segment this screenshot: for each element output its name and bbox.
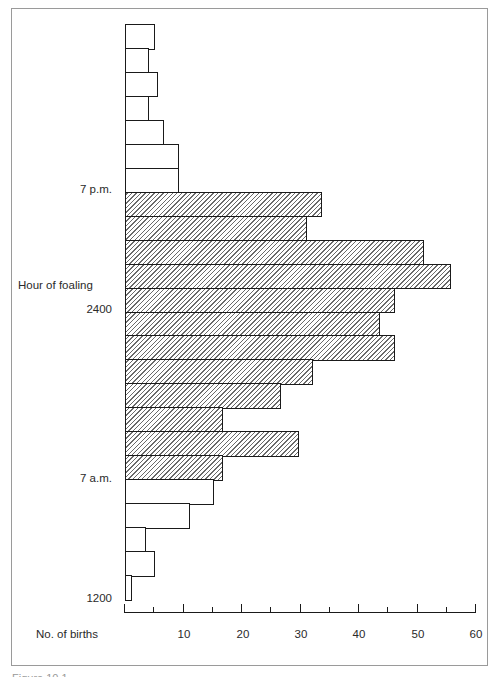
major-tick: [475, 604, 476, 613]
bar-09-10: [125, 527, 146, 553]
y-tick-1200: 1200: [22, 592, 112, 604]
bar-10-11: [125, 551, 155, 577]
x-tick-label-20: 20: [237, 628, 250, 640]
bar-14-15: [125, 72, 158, 98]
x-tick-label-30: 30: [295, 628, 308, 640]
bar-11-12: [125, 575, 132, 601]
bar-01-02: [125, 335, 395, 361]
major-tick: [241, 604, 242, 613]
x-tick-label-10: 10: [178, 628, 191, 640]
figure-caption: Figure 10.1: [12, 671, 68, 677]
minor-tick: [387, 607, 388, 613]
major-tick: [417, 604, 418, 613]
bar-19-20: [125, 192, 322, 218]
bar-00-01: [125, 312, 380, 338]
bar-07-08: [125, 479, 214, 505]
bar-05-06: [125, 431, 299, 457]
bar-12-13: [125, 24, 155, 50]
x-tick-label-60: 60: [470, 628, 483, 640]
y-tick-7am: 7 a.m.: [22, 472, 112, 484]
y-tick-7pm: 7 p.m.: [22, 183, 112, 195]
bar-02-03: [125, 359, 313, 385]
minor-tick: [329, 607, 330, 613]
bar-17-18: [125, 144, 179, 170]
major-tick: [300, 604, 301, 613]
bar-13-14: [125, 48, 149, 74]
bar-08-09: [125, 503, 190, 529]
bar-15-16: [125, 96, 149, 122]
x-tick-label-40: 40: [353, 628, 366, 640]
minor-tick: [153, 607, 154, 613]
bar-22-23: [125, 264, 451, 290]
bar-23-24: [125, 288, 395, 314]
minor-tick: [446, 607, 447, 613]
bar-18-19: [125, 168, 179, 194]
y-tick-2400: 2400: [22, 303, 112, 315]
bar-03-04: [125, 383, 281, 409]
minor-tick: [270, 607, 271, 613]
bar-16-17: [125, 120, 164, 146]
major-tick: [358, 604, 359, 613]
bar-04-05: [125, 407, 223, 433]
x-axis-title: No. of births: [36, 628, 98, 640]
bar-21-22: [125, 240, 424, 266]
y-axis-title: Hour of foaling: [18, 279, 93, 291]
major-tick: [183, 604, 184, 613]
major-tick: [124, 604, 125, 613]
x-tick-label-50: 50: [412, 628, 425, 640]
bar-06-07: [125, 455, 223, 481]
minor-tick: [212, 607, 213, 613]
bar-20-21: [125, 216, 307, 242]
